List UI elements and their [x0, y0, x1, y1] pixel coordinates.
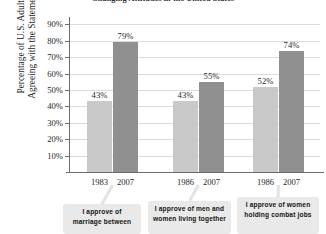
- callout-line-2: marriage between: [65, 217, 139, 227]
- y-tick-label: 90%: [47, 19, 63, 29]
- y-tick-label: 40%: [47, 101, 63, 111]
- bar-value-label: 55%: [204, 71, 220, 81]
- y-axis-title: Percentage of U.S. Adults Agreeing with …: [12, 0, 42, 118]
- bar: 79%: [113, 42, 138, 172]
- callout-line-2: women living together: [150, 214, 229, 224]
- y-tick-mark: [65, 139, 69, 140]
- x-tick-label: 2007: [283, 177, 300, 187]
- gridline: [69, 41, 320, 42]
- y-tick-label: 70%: [47, 52, 63, 62]
- bar: 55%: [199, 82, 224, 172]
- y-tick-label: 60%: [47, 69, 63, 79]
- bar-value-label: 43%: [92, 90, 108, 100]
- bar: 52%: [253, 87, 278, 172]
- y-axis-title-line-2: Agreeing with the Statement: [27, 0, 38, 99]
- x-tick-label: 2007: [117, 177, 134, 187]
- callout-box: I approve ofmarriage between: [63, 204, 141, 234]
- bar-value-label: 79%: [118, 31, 134, 41]
- callout-line-1: I approve of women: [239, 200, 317, 210]
- callout-line-2: holding combat jobs: [239, 210, 317, 220]
- bar-value-label: 43%: [178, 90, 194, 100]
- y-tick-mark: [65, 156, 69, 157]
- plot-area: 90%80%70%60%50%40%30%20%10% 43%79%43%55%…: [69, 17, 320, 172]
- callout-line-1: I approve of: [65, 207, 139, 217]
- y-tick-label: 10%: [47, 151, 63, 161]
- callout-box: I approve of womenholding combat jobs: [237, 197, 319, 234]
- y-axis-title-line-1: Percentage of U.S. Adults: [16, 0, 27, 94]
- y-axis-line: [69, 17, 70, 172]
- x-tick-label: 1983: [91, 177, 108, 187]
- bar-value-label: 52%: [258, 76, 274, 86]
- y-tick-label: 80%: [47, 36, 63, 46]
- callout-tail: [277, 185, 280, 197]
- y-tick-label: 50%: [47, 85, 63, 95]
- bar: 74%: [279, 51, 304, 172]
- y-tick-mark: [65, 74, 69, 75]
- chart-title: Changing Attitudes in the United States: [0, 0, 326, 3]
- y-tick-mark: [65, 24, 69, 25]
- gridline: [69, 24, 320, 25]
- x-tick-label: 1986: [177, 177, 194, 187]
- bar: 43%: [173, 101, 198, 172]
- x-tick-label: 2007: [203, 177, 220, 187]
- x-tick-label: 1986: [257, 177, 274, 187]
- callout-box: I approve of men andwomen living togethe…: [148, 201, 231, 234]
- callout-tail: [101, 184, 114, 204]
- bar-value-label: 74%: [284, 40, 300, 50]
- y-tick-mark: [65, 106, 69, 107]
- y-tick-mark: [65, 41, 69, 42]
- y-tick-label: 20%: [47, 134, 63, 144]
- callout-line-1: I approve of men and: [150, 204, 229, 214]
- y-tick-mark: [65, 123, 69, 124]
- x-axis-line: [66, 172, 324, 173]
- y-tick-mark: [65, 90, 69, 91]
- y-tick-mark: [65, 57, 69, 58]
- y-tick-label: 30%: [47, 118, 63, 128]
- bar: 43%: [87, 101, 112, 172]
